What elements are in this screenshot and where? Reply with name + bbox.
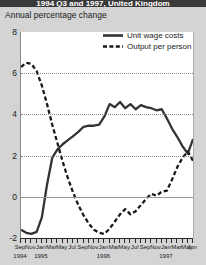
legend-item: Output per person (103, 41, 203, 52)
x-axis-tick (77, 238, 78, 243)
chart-legend: Unit wage costsOutput per person (103, 30, 203, 52)
x-axis-month-label: Nov (25, 244, 36, 250)
series-line (21, 102, 193, 234)
x-axis-month-label: May (56, 244, 67, 250)
x-axis-month-label: Sep (15, 244, 26, 250)
chart-title-bar: 1994 Q3 and 1997, United Kingdom (0, 0, 206, 7)
x-axis-tick (156, 238, 157, 243)
x-axis-tick (114, 238, 115, 243)
x-axis-month-label: Jan (99, 244, 109, 250)
gridline (21, 156, 193, 157)
x-axis-tick (62, 238, 63, 243)
x-axis-tick (88, 238, 89, 243)
x-axis-tick (192, 238, 193, 243)
x-axis-month-label: May (119, 244, 130, 250)
x-axis-tick (140, 238, 141, 243)
x-axis-month-labels: SepNovJanMarMayJulSepNovJanMarMayJulSepN… (0, 244, 206, 253)
x-axis-tick (150, 238, 151, 243)
x-axis-tick (119, 238, 120, 243)
x-axis-month-label: Jul (68, 244, 76, 250)
gridline (21, 73, 193, 74)
x-axis-tick (20, 238, 21, 243)
x-axis-tick (135, 238, 136, 243)
plot-area (20, 32, 194, 238)
x-axis-tick (124, 238, 125, 243)
x-axis-tick (46, 238, 47, 243)
x-axis-month-label: Jan (36, 244, 46, 250)
x-axis-month-label: Jan (161, 244, 171, 250)
x-axis-year-labels: 1994199519961997 (0, 253, 206, 262)
x-axis-month-label: Jun (187, 244, 197, 250)
gridline (21, 114, 193, 115)
legend-item: Unit wage costs (103, 30, 203, 41)
series-lines (21, 32, 193, 238)
zero-line (21, 197, 193, 198)
y-axis-tick-label: 0 (12, 192, 17, 202)
x-axis-month-label: Sep (77, 244, 88, 250)
x-axis-month-label: Sep (140, 244, 151, 250)
x-axis-month-label: Mar (109, 244, 119, 250)
legend-label: Output per person (127, 42, 191, 51)
legend-label: Unit wage costs (127, 31, 183, 40)
x-axis-tick (25, 238, 26, 243)
x-axis-month-label: Nov (150, 244, 161, 250)
x-axis-tick (41, 238, 42, 243)
x-axis-tick (161, 238, 162, 243)
x-axis-tick (187, 238, 188, 243)
x-axis-month-label: Mar (171, 244, 181, 250)
x-axis-tick (30, 238, 31, 243)
x-axis-month-label: Nov (88, 244, 99, 250)
x-axis-year-label: 1994 (13, 253, 26, 259)
x-axis-year-label: 1996 (97, 253, 110, 259)
x-axis-tick (51, 238, 52, 243)
x-axis-tick (171, 238, 172, 243)
x-axis-tick (129, 238, 130, 243)
chart-subtitle: Annual percentage change (5, 10, 107, 20)
chart-container: 1994 Q3 and 1997, United Kingdom Annual … (0, 0, 206, 265)
y-axis-tick-label: -2 (9, 233, 17, 243)
x-axis-year-label: 1995 (34, 253, 47, 259)
x-axis-tick (109, 238, 110, 243)
x-axis-tick (67, 238, 68, 243)
y-axis-tick-label: 8 (12, 27, 17, 37)
y-axis-tick-label: 4 (12, 109, 17, 119)
x-axis-month-label: Jul (131, 244, 139, 250)
x-axis-tick (93, 238, 94, 243)
x-axis-tick (56, 238, 57, 243)
y-axis-tick-label: 2 (12, 151, 17, 161)
series-line (21, 63, 193, 234)
x-axis-tick (182, 238, 183, 243)
legend-swatch (103, 30, 123, 41)
x-axis-month-label: Mar (46, 244, 56, 250)
x-axis-tick (145, 238, 146, 243)
x-axis-tick (176, 238, 177, 243)
x-axis-tick (72, 238, 73, 243)
legend-swatch (103, 41, 123, 52)
x-axis-tick (166, 238, 167, 243)
x-axis-year-label: 1997 (159, 253, 172, 259)
x-axis-tick (36, 238, 37, 243)
x-axis-tick (83, 238, 84, 243)
y-axis-labels: 86420-2 (0, 32, 20, 238)
x-axis-tick (98, 238, 99, 243)
y-axis-tick-label: 6 (12, 68, 17, 78)
x-axis-tick (103, 238, 104, 243)
